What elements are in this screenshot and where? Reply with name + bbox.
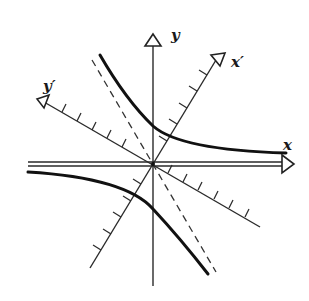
x-axis-label: x xyxy=(282,136,293,154)
rotated-hyperbola-diagram: y x′ y′ x xyxy=(0,0,309,301)
y-axis xyxy=(145,34,161,286)
y-axis-arrow-icon xyxy=(145,34,161,46)
origin-point xyxy=(151,162,155,166)
y-prime-arrow-icon xyxy=(37,95,49,108)
y-axis-label: y xyxy=(170,26,181,44)
x-prime-ticks xyxy=(93,70,207,250)
x-axis-arrow-icon xyxy=(282,155,294,173)
y-prime-label: y′ xyxy=(42,77,56,95)
x-prime-axis xyxy=(90,53,225,268)
hyperbola-upper-branch xyxy=(100,55,286,153)
x-prime-label: x′ xyxy=(230,53,244,71)
y-prime-axis xyxy=(37,95,260,227)
